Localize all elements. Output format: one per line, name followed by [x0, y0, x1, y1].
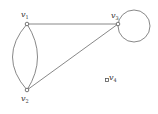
edge-v1-v2-right [27, 24, 38, 90]
vertex-v3 [116, 22, 120, 26]
graph-diagram: v1 v2 v3 v4 [0, 0, 158, 114]
edge-v1-v2-left [13, 24, 28, 90]
edge-v2-v3 [27, 24, 118, 90]
loop-v3 [118, 10, 150, 42]
label-v2: v2 [21, 94, 29, 104]
label-v3: v3 [111, 11, 119, 21]
label-v4: v4 [109, 73, 117, 83]
vertex-v2 [25, 88, 29, 92]
vertex-v1 [25, 22, 29, 26]
label-v1: v1 [21, 10, 29, 20]
